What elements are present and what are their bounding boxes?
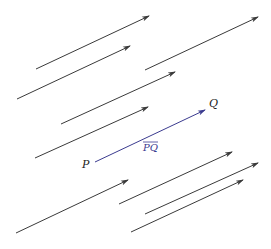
- vector-arrow-a3: [145, 17, 258, 70]
- vector-pq-group: P Q PQ: [81, 97, 218, 171]
- vector-pq-arrow: [95, 110, 205, 162]
- vector-arrow-a1: [36, 16, 149, 69]
- parallel-arrows-group: [16, 16, 258, 233]
- equivalent-vectors-diagram: P Q PQ: [0, 0, 271, 249]
- vector-arrow-a2: [17, 46, 130, 99]
- vector-arrow-a6: [16, 180, 128, 233]
- vector-arrow-a5: [35, 107, 148, 158]
- point-p-label: P: [81, 158, 90, 171]
- vector-arrow-a4: [61, 72, 175, 124]
- vector-arrow-a9: [131, 180, 243, 232]
- vector-arrow-a8: [145, 163, 258, 214]
- point-q-label: Q: [209, 97, 218, 110]
- vector-pq-name-label: PQ: [142, 142, 158, 153]
- vector-arrow-a7: [119, 152, 232, 204]
